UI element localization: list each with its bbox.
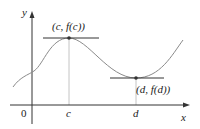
origin-label: 0 <box>21 107 27 119</box>
max-point <box>67 36 71 40</box>
x-axis-label: x <box>180 111 186 123</box>
x-axis-arrow-icon <box>183 103 190 108</box>
c-tick-label: c <box>66 107 71 119</box>
min-point <box>134 76 138 80</box>
y-axis-arrow-icon <box>30 11 35 18</box>
y-axis-label: y <box>21 6 27 18</box>
min-point-label: (d, f(d)) <box>136 83 171 96</box>
extrema-diagram: y x 0 c d (c, f(c)) (d, f(d)) <box>0 0 200 129</box>
d-tick-label: d <box>133 107 139 119</box>
function-curve <box>13 38 183 87</box>
max-point-label: (c, f(c)) <box>52 20 85 33</box>
